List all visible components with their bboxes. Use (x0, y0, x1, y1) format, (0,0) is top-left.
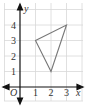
x-tick-2: 2 (49, 87, 54, 98)
y-axis-label: y (23, 3, 29, 14)
y-axis (18, 4, 23, 104)
x-axis-left-arrow-icon (3, 85, 9, 90)
origin-label: O (10, 87, 17, 98)
y-axis-down-arrow-icon (18, 98, 23, 104)
y-tick-4: 4 (11, 20, 16, 31)
y-tick-3: 3 (11, 35, 16, 46)
coordinate-plane: y x O 1 2 3 1 2 3 4 (0, 0, 87, 107)
y-tick-2: 2 (11, 51, 16, 62)
x-tick-3: 3 (64, 87, 69, 98)
x-axis-label: x (75, 87, 81, 98)
x-tick-1: 1 (33, 87, 38, 98)
y-axis-up-arrow-icon (18, 4, 23, 10)
y-tick-1: 1 (11, 66, 16, 77)
